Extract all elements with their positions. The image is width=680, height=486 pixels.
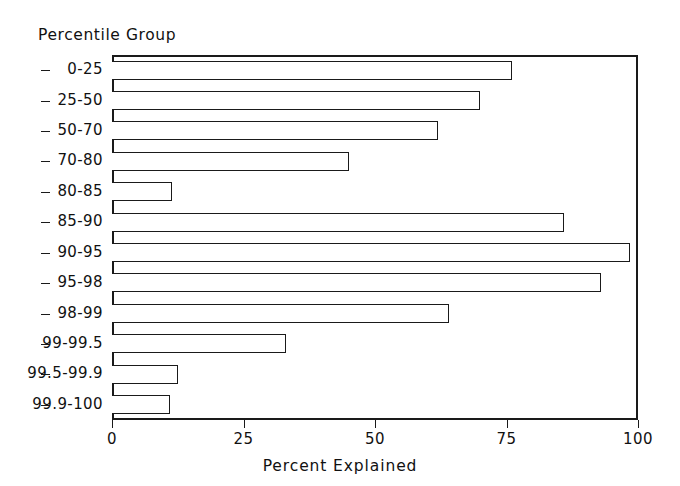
bar-row [112, 359, 638, 389]
x-axis-tick [112, 420, 113, 428]
x-axis-tick-label: 100 [623, 430, 653, 448]
bar [112, 273, 601, 292]
bar [112, 121, 438, 140]
x-axis-tick-label: 25 [234, 430, 254, 448]
x-axis-tick [507, 420, 508, 428]
y-axis-tick-label: 99-99.5 [0, 334, 103, 352]
x-axis-tick-label: 0 [107, 430, 117, 448]
bar-row [112, 329, 638, 359]
bar-row [112, 55, 638, 85]
y-axis-tick-label: 98-99 [0, 304, 103, 322]
bar-row [112, 85, 638, 115]
x-axis-tick [638, 420, 639, 428]
y-axis-tick-label: 90-95 [0, 243, 103, 261]
bar-row [112, 146, 638, 176]
x-axis-title: Percent Explained [0, 457, 680, 475]
bar [112, 304, 449, 323]
bar [112, 395, 170, 414]
y-axis-tick-label: 99.5-99.9 [0, 364, 103, 382]
y-axis-tick-label: 70-80 [0, 151, 103, 169]
bar-row [112, 268, 638, 298]
y-axis-tick-label: 25-50 [0, 91, 103, 109]
bar-chart-figure: Percentile Group 0-2525-5050-7070-8080-8… [0, 0, 680, 486]
bar-row [112, 390, 638, 420]
bar-row [112, 177, 638, 207]
x-axis-tick-label: 50 [365, 430, 385, 448]
bar [112, 243, 630, 262]
x-axis-tick-label: 75 [497, 430, 517, 448]
y-axis-tick-label: 0-25 [0, 60, 103, 78]
bar [112, 61, 512, 80]
bar [112, 213, 564, 232]
x-axis-tick [244, 420, 245, 428]
bar [112, 334, 286, 353]
bars-layer [112, 55, 638, 420]
bar-row [112, 298, 638, 328]
bar-row [112, 116, 638, 146]
y-axis-tick-labels: 0-2525-5050-7070-8080-8585-9090-9595-989… [0, 0, 103, 486]
y-axis-tick-label: 95-98 [0, 273, 103, 291]
y-axis-tick-label: 80-85 [0, 182, 103, 200]
bar [112, 182, 172, 201]
bar-row [112, 207, 638, 237]
y-axis-tick-label: 85-90 [0, 212, 103, 230]
y-axis-tick-label: 50-70 [0, 121, 103, 139]
x-axis-tick [375, 420, 376, 428]
bar-row [112, 238, 638, 268]
bar [112, 91, 480, 110]
bar [112, 152, 349, 171]
y-axis-tick-label: 99.9-100 [0, 395, 103, 413]
bar [112, 365, 178, 384]
